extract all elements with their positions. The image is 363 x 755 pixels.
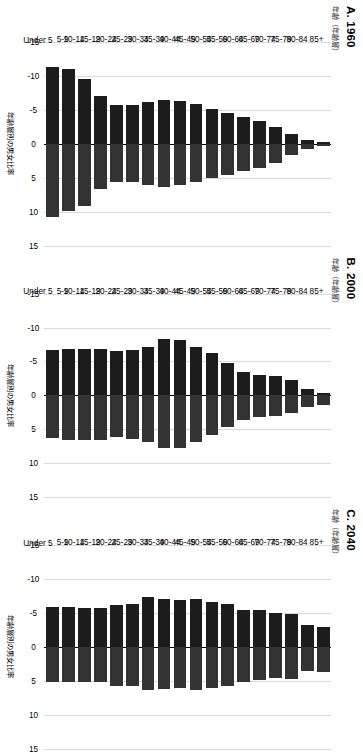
bar-female (142, 597, 155, 647)
bar-male (253, 395, 266, 417)
bar-row (46, 42, 59, 246)
bar-male (126, 647, 139, 686)
value-tick-label: -10 (21, 575, 47, 584)
bar-male (317, 647, 330, 672)
bar-row (285, 42, 298, 246)
legend-label: 男性 (0, 126, 1, 140)
bar-female (94, 608, 107, 647)
bar-male (237, 144, 250, 171)
value-tick-label: 15 (21, 241, 47, 250)
axis-title-and-legend: 年齢層別の男女比率男性女性 (4, 545, 16, 749)
value-tick-label: -15 (21, 38, 47, 47)
bar-female (126, 105, 139, 144)
bar-row (142, 294, 155, 498)
value-tick-label: 5 (21, 425, 47, 434)
bar-female (301, 625, 314, 647)
bar-male (158, 395, 171, 448)
value-tick-label: -5 (21, 609, 47, 618)
bar-row (62, 294, 75, 498)
legend-item[interactable]: 男性 (0, 370, 1, 392)
bar-row (301, 545, 314, 749)
bar-male (94, 144, 107, 189)
bar-male (78, 647, 91, 682)
bar-male (142, 144, 155, 185)
bar-row (126, 294, 139, 498)
bar-male (94, 647, 107, 682)
bar-row (221, 42, 234, 246)
bar-row (62, 545, 75, 749)
bar-male (237, 647, 250, 682)
bar-female (285, 614, 298, 647)
bar-row (206, 545, 219, 749)
bar-male (110, 647, 123, 686)
axis-title-and-legend: 年齢層別の男女比率男性女性 (4, 294, 16, 498)
legend-item[interactable]: 女性 (0, 651, 1, 673)
legend: 男性女性 (0, 42, 1, 246)
bar-male (190, 395, 203, 441)
bar-row (285, 545, 298, 749)
bar-male (285, 395, 298, 413)
bar-female (142, 347, 155, 396)
bar-male (221, 647, 234, 686)
chart-panel-1: A. 1960年齢（年齢層）85+80-8475-7970-7465-6960-… (0, 0, 363, 252)
bar-female (46, 607, 59, 647)
bar-female (301, 389, 314, 396)
bar-female (221, 113, 234, 144)
bar-male (174, 144, 187, 185)
value-tick-label: 0 (21, 391, 47, 400)
bar-row (94, 294, 107, 498)
bar-row (301, 42, 314, 246)
legend-item[interactable]: 女性 (0, 148, 1, 170)
bar-female (190, 347, 203, 396)
bar-row (206, 42, 219, 246)
legend-item[interactable]: 男性 (0, 621, 1, 643)
bar-female (237, 610, 250, 647)
bar-female (237, 117, 250, 143)
value-tick-label: 0 (21, 642, 47, 651)
legend-item[interactable]: 男性 (0, 118, 1, 140)
bar-male (174, 647, 187, 688)
x-axis-title: 年齢層別の男女比率 (6, 545, 17, 749)
bar-female (158, 339, 171, 395)
category-label: 85+ (310, 539, 324, 548)
legend-label: 男性 (0, 629, 1, 643)
bar-group (44, 42, 331, 246)
bar-male (142, 647, 155, 690)
y-axis-title: 年齢（年齢層） (331, 6, 341, 55)
bar-female (206, 353, 219, 395)
bar-female (62, 607, 75, 647)
bar-female (317, 142, 330, 144)
bar-row (237, 294, 250, 498)
legend-label: 女性 (0, 407, 1, 421)
bar-row (62, 42, 75, 246)
bar-female (158, 100, 171, 144)
value-tick-label: 10 (21, 207, 47, 216)
bar-female (190, 599, 203, 647)
bar-male (126, 144, 139, 182)
bar-female (269, 376, 282, 396)
chart-panel-3: C. 2040年齢（年齢層）85+80-8475-7970-7465-6960-… (0, 503, 363, 755)
bar-female (62, 69, 75, 144)
bar-female (285, 380, 298, 395)
bar-row (158, 294, 171, 498)
bar-male (269, 144, 282, 163)
bar-female (94, 349, 107, 395)
bar-row (78, 294, 91, 498)
legend-item[interactable]: 女性 (0, 399, 1, 421)
bar-male (78, 395, 91, 440)
bar-female (269, 613, 282, 647)
panel-title: A. 1960 (345, 6, 357, 48)
gridline-15 (44, 497, 331, 498)
bar-row (142, 42, 155, 246)
bar-group (44, 545, 331, 749)
bar-male (206, 144, 219, 178)
bar-male (253, 647, 266, 680)
bar-row (301, 294, 314, 498)
panel-title: C. 2040 (345, 509, 357, 551)
bar-male (269, 647, 282, 678)
bar-male (206, 395, 219, 435)
bar-male (221, 144, 234, 175)
bar-row (237, 545, 250, 749)
legend-label: 女性 (0, 155, 1, 169)
bar-row (94, 42, 107, 246)
